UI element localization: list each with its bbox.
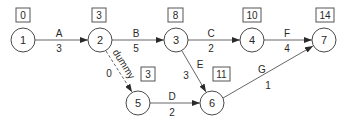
node-3-label: 3 [173, 34, 179, 46]
edge-e-duration: 3 [183, 70, 189, 81]
edge-b-duration: 5 [133, 43, 139, 54]
time-label-node-7: 14 [319, 10, 331, 21]
nodes: 1 2 3 4 7 5 6 [11, 28, 336, 115]
edge-dummy-duration: 0 [106, 68, 112, 79]
edge-a-activity: A [56, 28, 63, 39]
edge-f-activity: F [284, 28, 290, 39]
node-2-label: 2 [97, 34, 103, 46]
edge-b-activity: B [133, 28, 140, 39]
node-5-label: 5 [135, 97, 141, 109]
network-diagram: A 3 B 5 C 2 F 4 dummy 0 E 3 D 2 G 1 0 3 … [0, 0, 348, 124]
time-label-node-3: 8 [173, 10, 179, 21]
time-label-node-5: 3 [145, 69, 151, 80]
time-label-node-2: 3 [96, 10, 102, 21]
node-4-label: 4 [249, 34, 255, 46]
edge-g-duration: 1 [265, 80, 271, 91]
edge-d-duration: 2 [169, 107, 175, 118]
edge-e-activity: E [197, 59, 204, 70]
node-7-label: 7 [321, 34, 327, 46]
edge-c-activity: C [207, 28, 214, 39]
node-6-label: 6 [209, 97, 215, 109]
edge-f-duration: 4 [284, 43, 290, 54]
edge-d-activity: D [168, 91, 175, 102]
edge-a-duration: 3 [56, 43, 62, 54]
time-label-node-6: 11 [216, 69, 227, 80]
node-1-label: 1 [20, 34, 26, 46]
time-label-node-1: 0 [20, 10, 26, 21]
edge-c-duration: 2 [208, 43, 214, 54]
time-label-node-4: 10 [246, 10, 258, 21]
edge-g-activity: G [258, 64, 266, 75]
